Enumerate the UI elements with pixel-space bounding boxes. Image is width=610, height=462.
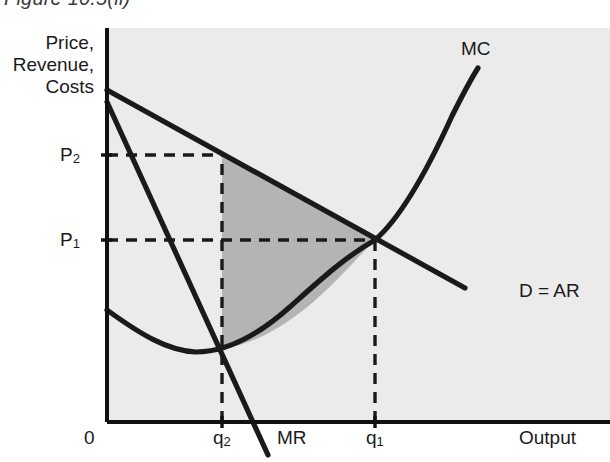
shaded-region-deadweight-loss (222, 155, 375, 348)
y-tick-label-p2-subscript: 2 (73, 151, 80, 166)
x-tick-label-q1-base: q (366, 427, 377, 448)
y-axis-title-line-2: Revenue, (13, 54, 94, 76)
x-tick-label-q2: q2 (213, 427, 231, 449)
figure-container: Figure 10.5(ii) Price, Revenue, Costs P2… (0, 0, 610, 462)
x-tick-label-q1: q1 (366, 427, 384, 449)
y-axis-title-line-1: Price, (13, 32, 94, 54)
y-axis-title-line-3: Costs (13, 76, 94, 98)
y-tick-label-p2-base: P (60, 144, 73, 165)
y-tick-label-p1: P1 (60, 229, 80, 251)
y-tick-label-p1-base: P (60, 229, 73, 250)
curve-label-mc: MC (461, 38, 491, 60)
x-tick-label-q2-subscript: 2 (224, 434, 231, 449)
y-tick-label-p1-subscript: 1 (73, 236, 80, 251)
origin-label: 0 (84, 427, 95, 449)
y-tick-label-p2: P2 (60, 144, 80, 166)
x-tick-label-q2-base: q (213, 427, 224, 448)
x-tick-label-q1-subscript: 1 (377, 434, 384, 449)
y-axis-title: Price, Revenue, Costs (13, 32, 94, 98)
curve-label-d-ar: D = AR (519, 280, 580, 302)
curve-label-mr: MR (277, 427, 307, 449)
x-axis-title: Output (519, 427, 576, 449)
